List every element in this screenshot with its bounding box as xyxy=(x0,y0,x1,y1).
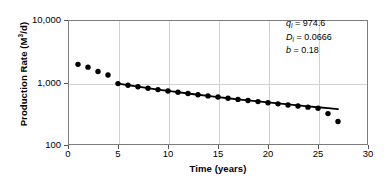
annotation-equals: = xyxy=(292,18,302,28)
gridline-vertical xyxy=(169,21,170,144)
annotation-line: Di = 0.0666 xyxy=(286,32,332,46)
annotation-value: 974.6 xyxy=(303,18,326,28)
production-decline-chart: Production Rate (M3/d) Time (years) qi =… xyxy=(0,0,389,183)
y-axis-tick xyxy=(64,20,68,21)
y-axis-tick xyxy=(64,83,68,84)
gridline-vertical xyxy=(269,21,270,144)
gridline-vertical xyxy=(219,21,220,144)
x-axis-tick-label: 10 xyxy=(148,148,188,159)
annotation-equals: = xyxy=(294,32,304,42)
y-axis-tick-label: 10,000 xyxy=(0,14,61,25)
y-axis-tick xyxy=(64,145,68,146)
annotation-line: b = 0.18 xyxy=(286,45,332,57)
y-axis-tick-label: 100 xyxy=(0,139,61,150)
y-axis-title-superscript: 3 xyxy=(17,34,24,38)
y-axis-tick-label: 1,000 xyxy=(0,77,61,88)
x-axis-tick-label: 15 xyxy=(198,148,238,159)
annotation-value: 0.18 xyxy=(301,45,319,55)
x-axis-title: Time (years) xyxy=(68,163,368,174)
gridline-vertical xyxy=(119,21,120,144)
gridline-horizontal xyxy=(69,84,367,85)
x-axis-tick-label: 5 xyxy=(98,148,138,159)
annotation-line: qi = 974.6 xyxy=(286,18,332,32)
x-axis-tick-label: 30 xyxy=(348,148,388,159)
y-axis-title: Production Rate (M3/d) xyxy=(17,4,29,144)
x-axis-tick-label: 20 xyxy=(248,148,288,159)
x-axis-tick-label: 25 xyxy=(298,148,338,159)
annotation-equals: = xyxy=(291,45,301,55)
fit-parameters-annotation: qi = 974.6Di = 0.0666b = 0.18 xyxy=(286,18,332,57)
annotation-value: 0.0666 xyxy=(304,32,332,42)
